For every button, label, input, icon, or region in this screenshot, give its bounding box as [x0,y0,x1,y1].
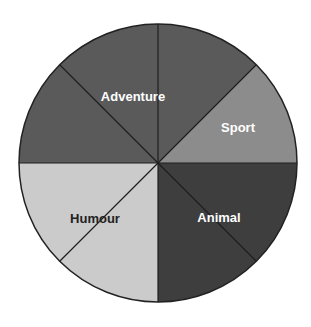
pie-chart [0,0,311,327]
slice-label-humour: Humour [70,211,120,226]
slice-label-animal: Animal [197,210,240,225]
slice-label-adventure: Adventure [101,89,165,104]
slice-label-sport: Sport [221,120,255,135]
